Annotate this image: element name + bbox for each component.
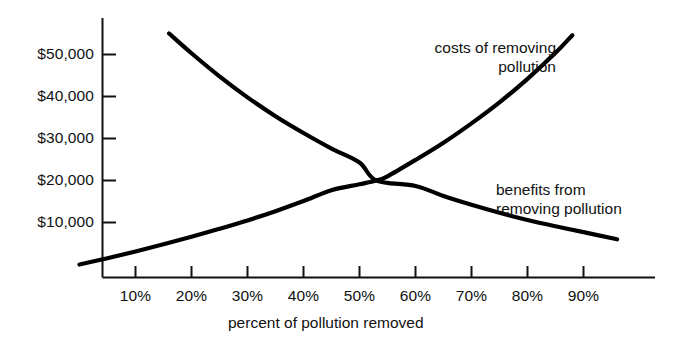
x-axis-title: percent of pollution removed [228, 315, 424, 331]
x-tick-label-60: 60% [385, 288, 446, 304]
benefits-annotation-line-2: removing pollution [496, 199, 676, 218]
x-tick-label-70: 70% [441, 288, 502, 304]
y-tick-label-30000: $30,000 [14, 130, 94, 146]
x-tick-label-30: 30% [217, 288, 278, 304]
costs-series-annotation: costs of removing pollution [390, 38, 556, 77]
y-tick-label-10000: $10,000 [14, 214, 94, 230]
x-tick-label-90: 90% [553, 288, 614, 304]
x-axis-ticks [136, 266, 584, 277]
x-tick-label-80: 80% [497, 288, 558, 304]
x-tick-label-50: 50% [329, 288, 390, 304]
costs-annotation-line-2: pollution [390, 57, 556, 76]
benefits-series-annotation: benefits from removing pollution [496, 180, 676, 219]
x-tick-label-10: 10% [105, 288, 166, 304]
y-axis-ticks [103, 55, 116, 223]
benefits-annotation-line-1: benefits from [496, 180, 676, 199]
costs-annotation-line-1: costs of removing [390, 38, 556, 57]
y-tick-label-40000: $40,000 [14, 88, 94, 104]
chart-container: $50,000 $40,000 $30,000 $20,000 $10,000 … [0, 0, 683, 349]
x-tick-label-20: 20% [161, 288, 222, 304]
y-tick-label-20000: $20,000 [14, 172, 94, 188]
y-tick-label-50000: $50,000 [14, 46, 94, 62]
x-tick-label-40: 40% [273, 288, 334, 304]
